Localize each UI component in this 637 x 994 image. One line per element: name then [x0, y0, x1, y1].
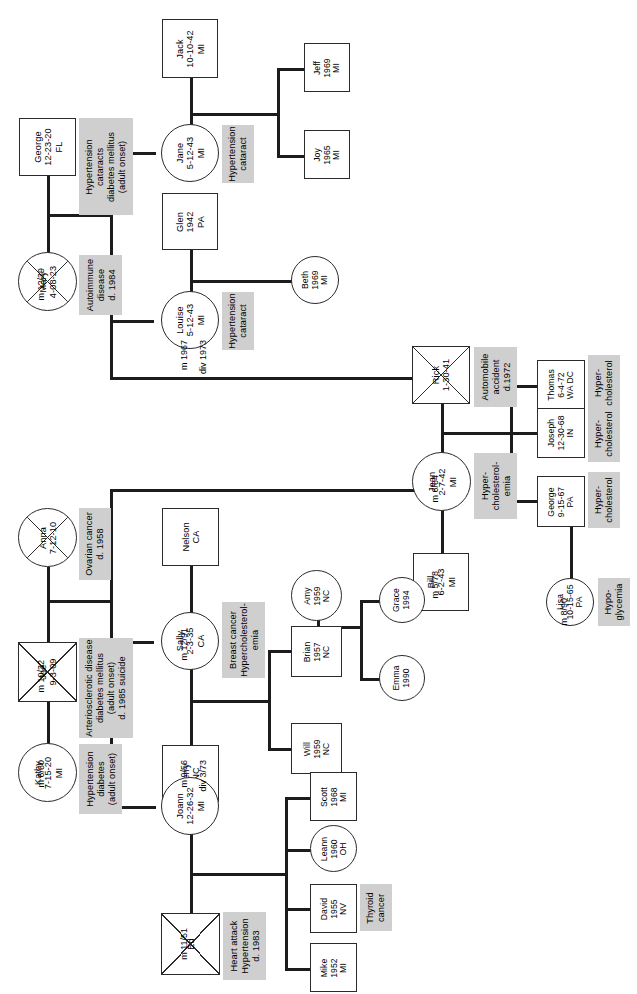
person-node-joy[interactable]: Joy1965MI: [304, 130, 350, 179]
person-label-scott: Scott1968MI: [319, 786, 348, 806]
union-divorced-glen-louise: div 1973: [199, 340, 209, 374]
person-label-david: David1955NV: [319, 897, 348, 919]
person-node-leann[interactable]: Leann1960OH: [310, 825, 357, 872]
person-node-beth[interactable]: Beth1969MI: [291, 256, 339, 304]
person-label-george-jr: George9-15-67PA: [547, 486, 576, 516]
person-node-anna[interactable]: Anna7-12-10: [18, 508, 77, 567]
union-married-jean-bill: m 5/78: [431, 571, 441, 599]
person-node-thomas[interactable]: Thomas6-4-72WA DC: [537, 360, 585, 410]
union-married-joe-anna: m 10/32: [37, 660, 47, 693]
union-divorced-sally-jerry: div 3/73: [199, 760, 209, 792]
annotation-david: Thyroidcancer: [360, 884, 392, 931]
connector-to-david: [285, 908, 311, 911]
person-node-george-jr[interactable]: George9-15-67PA: [537, 476, 585, 527]
connector-to-jeff: [277, 68, 305, 71]
annotation-text-jane: Hypertensioncataract: [227, 126, 249, 181]
annotation-anna: Ovarian cancerd. 1958: [79, 508, 111, 580]
connector-sally-jerry: [190, 664, 193, 746]
annotation-text-anna: Ovarian cancerd. 1958: [84, 512, 106, 576]
annotation-text-mary: Autoimmunediseased. 1984: [84, 259, 117, 312]
person-label-amy: Amy1959NC: [302, 586, 331, 606]
annotation-thomas: Hyper-cholesterol: [588, 355, 620, 411]
person-label-george-sr: George12-23-20FL: [32, 128, 63, 166]
person-node-nelson[interactable]: NelsonCA: [162, 508, 219, 566]
person-label-leann: Leann1960OH: [319, 836, 348, 860]
connector-to-leann: [285, 849, 311, 852]
annotation-text-george-sr: Hypertensioncataractsdiabetes mellitus(a…: [84, 131, 127, 201]
person-label-grace: Grace1994: [392, 588, 411, 612]
person-node-brian[interactable]: Brian1957NC: [291, 626, 342, 677]
annotation-text-rick: Automobileaccidentd.1972: [479, 354, 512, 401]
connector-to-grace: [360, 600, 380, 603]
person-node-george-sr[interactable]: George12-23-20FL: [19, 118, 76, 176]
annotation-george-jr: Hyper-cholesterol: [588, 472, 620, 528]
annotation-text-david: Thyroidcancer: [365, 892, 387, 923]
person-label-beth: Beth1969MI: [301, 270, 330, 290]
sibship-trunk-joann-ed: [285, 797, 288, 970]
union-label-sally-jerry-div: div 3/73: [199, 740, 231, 789]
person-node-jack[interactable]: Jack10-10-42MI: [162, 19, 218, 78]
person-node-david[interactable]: David1955NV: [310, 884, 357, 933]
union-label-rick-jean: m 6/64: [431, 455, 459, 504]
person-node-mike[interactable]: Mike1952MI: [310, 943, 357, 992]
annotation-text-thomas: Hyper-cholesterol: [593, 360, 615, 406]
connector-to-mike: [285, 968, 311, 971]
person-label-mike: Mike1952MI: [319, 958, 348, 978]
union-married-joe-kathy: m 6/60: [37, 760, 47, 788]
annotation-jean: Hyper-cholesterol-emia: [474, 453, 517, 519]
annotation-text-lisa: Hypo-glycemia: [603, 583, 625, 620]
annotation-text-ed: Heart attackHypertensiond. 1983: [228, 918, 261, 973]
union-label-joe-kathy: m 6/60: [37, 740, 65, 789]
union-married-rick-jean: m 6/64: [431, 475, 441, 503]
person-label-joseph: Joseph12-30-68IN: [547, 415, 576, 450]
annotation-jane: Hypertensioncataract: [222, 125, 254, 183]
pedigree-chart: George12-23-20FL Mary4-08-23 Jack10-10-4…: [0, 0, 637, 994]
connector-sibship-to-louise: [110, 320, 154, 323]
annotation-text-jean: Hyper-cholesterol-emia: [479, 462, 512, 511]
connector-to-beth: [190, 280, 292, 283]
annotation-lisa: Hypo-glycemia: [598, 578, 630, 626]
person-label-will: Will1959NC: [302, 739, 331, 759]
connector-to-joseph: [510, 432, 538, 435]
person-node-jane[interactable]: Jane5-12-43MI: [161, 124, 219, 182]
connector-to-scott: [285, 797, 311, 800]
annotation-sally: Breast cancerHypercholesterol-emia: [222, 602, 265, 678]
union-married-georgejr-lisa: m 8/90: [560, 598, 570, 626]
person-node-amy[interactable]: Amy1959NC: [291, 570, 342, 621]
union-married-sally-nelson: m 12/91: [180, 628, 190, 661]
person-node-will[interactable]: Will1959NC: [291, 723, 342, 774]
person-node-emma[interactable]: Emma1990: [379, 655, 425, 701]
connector-to-brian: [268, 650, 292, 653]
connector-to-emma: [360, 678, 380, 681]
person-label-joy: Joy1965MI: [313, 145, 342, 165]
person-node-jeff[interactable]: Jeff1969MI: [304, 43, 350, 92]
person-node-grace[interactable]: Grace1994: [379, 577, 425, 623]
person-label-glen: Glen1942PA: [175, 211, 206, 232]
sibship-line-rick-jean: [441, 432, 513, 435]
union-label-sally-nelson: m 12/91: [180, 608, 213, 657]
annotation-text-kathy: Hypertensiondiabetes(adult onset): [84, 751, 117, 806]
sibship-trunk-sally-jerry: [268, 650, 271, 750]
connector-to-will: [268, 748, 292, 751]
person-label-brian: Brian1957NC: [302, 641, 331, 662]
person-label-emma: Emma1990: [392, 665, 411, 690]
person-node-joseph[interactable]: Joseph12-30-68IN: [537, 408, 585, 458]
connector-sibship-to-jean-lower: [110, 489, 422, 492]
person-label-rick: Rick1-30-41: [431, 359, 452, 391]
connector-joe-anna: [47, 567, 50, 643]
union-married-glen-louise: m 1967: [180, 340, 190, 370]
annotation-text-joseph: Hyper-cholesterol: [593, 411, 615, 457]
annotation-joseph: Hyper-cholesterol: [588, 406, 620, 462]
connector-georgejr-lisa: [570, 527, 573, 579]
sibship-trunk-brian-amy: [360, 600, 363, 680]
annotation-text-sally: Breast cancerHypercholesterol-emia: [227, 603, 260, 677]
union-label-joann-ed: m 11/51: [180, 908, 212, 957]
annotation-text-george-jr: Hyper-cholesterol: [593, 477, 615, 523]
person-node-glen[interactable]: Glen1942PA: [162, 193, 218, 250]
person-label-nelson: NelsonCA: [180, 522, 201, 551]
connector-sibship-to-jean: [110, 377, 422, 380]
person-node-rick[interactable]: Rick1-30-41: [412, 346, 470, 404]
person-node-scott[interactable]: Scott1968MI: [310, 772, 357, 821]
union-married-joann-ed: m 11/51: [180, 928, 190, 960]
connector-to-joy: [277, 155, 305, 158]
